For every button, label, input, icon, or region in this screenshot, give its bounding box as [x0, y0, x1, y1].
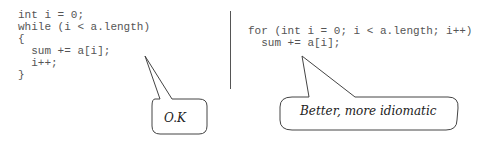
callout-shapes: [0, 0, 496, 143]
ok-callout-text: O.K: [164, 111, 186, 125]
better-callout-text: Better, more idiomatic: [300, 104, 436, 118]
better-speech-bubble: [280, 56, 458, 130]
comparison-diagram: int i = 0; while (i < a.length) { sum +=…: [0, 0, 496, 143]
